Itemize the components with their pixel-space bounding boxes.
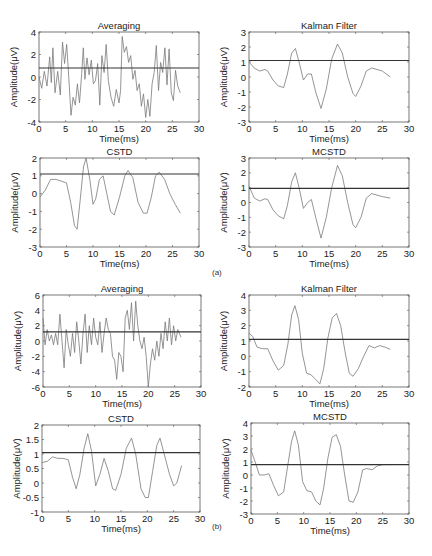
- y-axis-label: Amplitude(μV): [218, 311, 229, 371]
- x-tick-label: 10: [298, 515, 309, 526]
- chart-title: Kalman Filter: [301, 20, 357, 31]
- y-tick-label: 4: [35, 305, 40, 316]
- x-axis-label: Time(ms): [101, 523, 141, 534]
- y-tick-label: -2: [238, 227, 246, 238]
- signal-line: [249, 306, 390, 384]
- chart-title: MCSTD: [313, 411, 347, 422]
- y-tick-label: 1: [241, 336, 246, 347]
- x-tick-label: 10: [297, 248, 308, 259]
- y-tick-label: -6: [32, 382, 40, 393]
- x-tick-label: 0: [248, 515, 253, 526]
- y-axis-label: Amplitude(μV): [9, 172, 20, 232]
- y-axis-label: Amplitude(μV): [11, 438, 22, 498]
- y-tick-label: 4: [31, 27, 36, 38]
- y-tick-label: -3: [238, 117, 246, 128]
- y-tick-label: 0: [241, 197, 246, 208]
- x-tick-label: 10: [88, 248, 99, 259]
- y-tick-label: 1: [241, 182, 246, 193]
- x-tick-label: 5: [273, 123, 278, 134]
- x-axis-label: Time(ms): [100, 258, 140, 269]
- y-tick-label: 0: [241, 72, 246, 83]
- y-tick-label: 0: [31, 72, 36, 83]
- y-axis-label: Amplitude(μV): [12, 311, 23, 371]
- y-tick-label: -4: [28, 117, 36, 128]
- x-tick-label: 10: [90, 388, 101, 399]
- x-tick-label: 30: [194, 248, 205, 259]
- y-tick-label: 0: [241, 351, 246, 362]
- x-tick-label: 20: [351, 515, 362, 526]
- y-tick-label: 1: [243, 457, 248, 468]
- chart-title: Averaging: [98, 20, 141, 31]
- x-tick-label: 5: [67, 388, 72, 399]
- signal-line: [249, 165, 390, 238]
- x-tick-label: 20: [350, 123, 361, 134]
- x-tick-label: 5: [273, 248, 278, 259]
- x-tick-label: 10: [297, 388, 308, 399]
- y-tick-label: -2: [238, 102, 246, 113]
- y-tick-label: -1: [240, 483, 248, 494]
- x-tick-label: 0: [246, 388, 251, 399]
- x-tick-label: 30: [404, 515, 415, 526]
- y-tick-label: 6: [35, 290, 40, 301]
- y-tick-label: -1: [238, 87, 246, 98]
- x-tick-label: 25: [377, 515, 388, 526]
- y-tick-label: 2: [243, 444, 248, 455]
- chart-b-averaging: Averaging051015202530-6-4-20246Time(ms)A…: [12, 283, 206, 409]
- y-axis-label: Amplitude(μV): [220, 438, 231, 498]
- y-tick-label: 2: [34, 420, 39, 431]
- x-axis-label: Time(ms): [102, 398, 142, 409]
- x-tick-label: 10: [89, 513, 100, 524]
- y-tick-label: 2: [32, 153, 37, 164]
- signal-line: [251, 431, 391, 505]
- signal-line: [42, 434, 182, 498]
- y-tick-label: -2: [238, 382, 246, 393]
- chart-b-cstd: CSTD051015202530-1-0.500.511.52Time(ms)A…: [11, 413, 205, 534]
- y-tick-label: 2: [31, 49, 36, 60]
- x-tick-label: 25: [167, 248, 178, 259]
- x-tick-label: 30: [194, 123, 205, 134]
- y-tick-label: 2: [241, 42, 246, 53]
- plot-frame: [251, 423, 409, 514]
- chart-a-averaging: Averaging051015202530-4-2024Time(ms)Ampl…: [8, 20, 204, 144]
- x-tick-label: 30: [404, 388, 415, 399]
- y-tick-label: 0: [243, 470, 248, 481]
- y-tick-label: 3: [241, 153, 246, 164]
- x-tick-label: 25: [167, 123, 178, 134]
- y-tick-label: -3: [238, 242, 246, 253]
- x-axis-label: Time(ms): [309, 133, 349, 144]
- x-tick-label: 20: [350, 388, 361, 399]
- x-axis-label: Time(ms): [309, 398, 349, 409]
- y-tick-label: -1: [31, 507, 39, 518]
- chart-title: CSTD: [107, 146, 133, 157]
- y-tick-label: 1: [34, 449, 39, 460]
- x-tick-label: 5: [64, 248, 69, 259]
- subfigure-label-a: (a): [212, 268, 222, 277]
- y-axis-label: Amplitude(μV): [8, 47, 19, 107]
- signal-line: [40, 158, 180, 229]
- y-tick-label: -4: [32, 366, 40, 377]
- x-tick-label: 10: [297, 123, 308, 134]
- y-tick-label: 4: [241, 290, 246, 301]
- x-tick-label: 10: [87, 123, 98, 134]
- x-tick-label: 25: [168, 513, 179, 524]
- x-tick-label: 20: [141, 248, 152, 259]
- y-tick-label: 2: [241, 167, 246, 178]
- x-tick-label: 30: [404, 248, 415, 259]
- y-axis-label: Amplitude(μV): [218, 47, 229, 107]
- y-tick-label: -1: [238, 212, 246, 223]
- plot-frame: [42, 425, 200, 512]
- y-tick-label: 3: [241, 27, 246, 38]
- chart-b-kalman-filter: Kalman Filter051015202530-2-101234Time(m…: [218, 283, 414, 409]
- y-tick-label: -2: [240, 496, 248, 507]
- x-tick-label: 30: [195, 513, 206, 524]
- signal-line: [39, 37, 180, 118]
- plot-frame: [43, 295, 201, 387]
- chart-b-mcstd: MCSTD051015202530-3-2-101234Time(ms)Ampl…: [220, 411, 414, 536]
- chart-a-cstd: CSTD051015202530-3-2-1012Time(ms)Amplitu…: [9, 146, 204, 269]
- x-tick-label: 0: [36, 123, 41, 134]
- chart-title: Averaging: [101, 283, 144, 294]
- figure-container: Averaging051015202530-4-2024Time(ms)Ampl…: [0, 0, 432, 556]
- x-tick-label: 25: [377, 388, 388, 399]
- x-tick-label: 20: [142, 513, 153, 524]
- chart-title: CSTD: [108, 413, 134, 424]
